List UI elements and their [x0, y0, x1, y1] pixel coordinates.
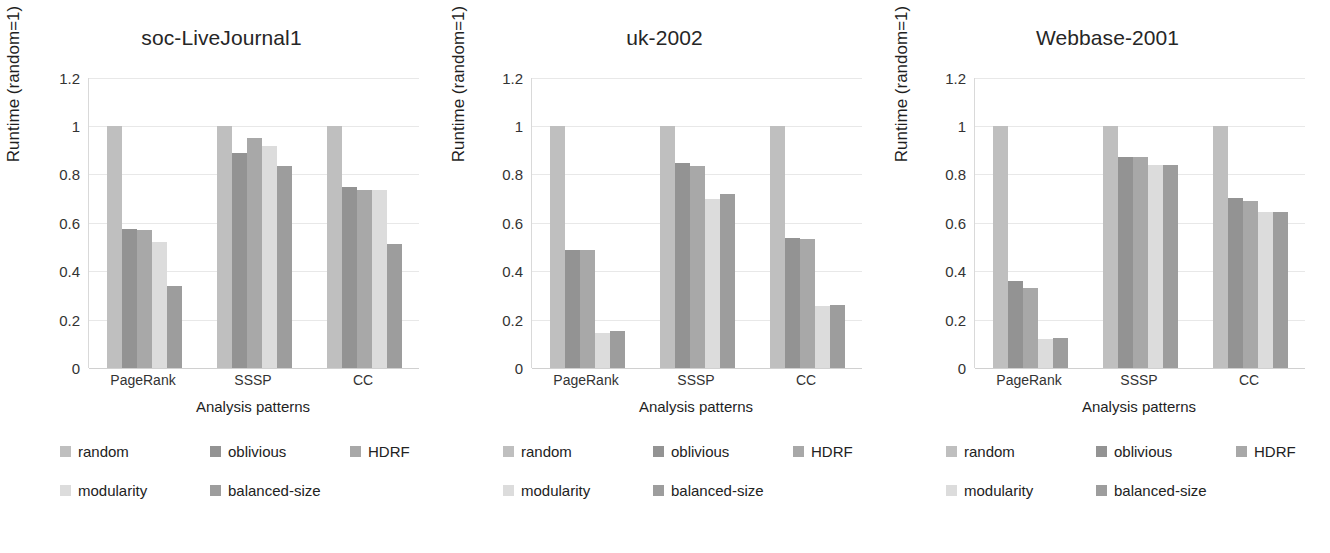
y-tick: 0	[920, 360, 966, 377]
legend-1: randomobliviousHDRFmodularitybalanced-si…	[60, 443, 430, 521]
bar-groups-1	[89, 78, 419, 368]
bar	[1163, 165, 1178, 368]
legend-row: modularitybalanced-size	[946, 482, 1316, 499]
legend-swatch-icon	[653, 446, 664, 457]
legend-label: HDRF	[811, 443, 853, 460]
x-tick: SSSP	[641, 372, 751, 388]
y-axis-ticks: 1.2 1 0.8 0.6 0.4 0.2 0	[28, 78, 80, 368]
bar	[152, 242, 167, 368]
legend-item-random[interactable]: random	[946, 443, 1096, 460]
legend-item-balanced-size[interactable]: balanced-size	[1096, 482, 1207, 499]
legend-item-balanced-size[interactable]: balanced-size	[210, 482, 321, 499]
bar	[137, 230, 152, 368]
legend-label: oblivious	[671, 443, 729, 460]
y-tick: 0.8	[477, 166, 523, 183]
bar	[1148, 165, 1163, 368]
bar	[830, 305, 845, 368]
legend-item-oblivious[interactable]: oblivious	[1096, 443, 1236, 460]
legend-swatch-icon	[503, 446, 514, 457]
bar	[107, 126, 122, 368]
y-tick: 1.2	[34, 70, 80, 87]
y-tick: 0.6	[920, 215, 966, 232]
x-tick: CC	[751, 372, 861, 388]
page-title: uk-2002	[443, 26, 886, 50]
bar-groups-2	[532, 78, 862, 368]
bar	[675, 163, 690, 368]
y-tick: 0	[34, 360, 80, 377]
legend-item-modularity[interactable]: modularity	[60, 482, 210, 499]
chart-panel-webbase-2001: Webbase-2001 Runtime (random=1) 1.2 1 0.…	[886, 0, 1329, 553]
bar	[262, 146, 277, 368]
bar-group	[309, 78, 419, 368]
y-axis-ticks: 1.2 1 0.8 0.6 0.4 0.2 0	[914, 78, 966, 368]
legend-swatch-icon	[1096, 446, 1107, 457]
y-tick: 0.4	[920, 263, 966, 280]
x-axis-label: Analysis patterns	[974, 398, 1304, 415]
legend-label: oblivious	[1114, 443, 1172, 460]
legend-item-balanced-size[interactable]: balanced-size	[653, 482, 764, 499]
bar	[720, 194, 735, 368]
bar	[232, 153, 247, 368]
bar	[770, 126, 785, 368]
legend-item-random[interactable]: random	[503, 443, 653, 460]
y-tick: 0	[477, 360, 523, 377]
bar	[1008, 281, 1023, 368]
y-tick: 1.2	[477, 70, 523, 87]
legend-item-modularity[interactable]: modularity	[946, 482, 1096, 499]
bar	[610, 331, 625, 368]
bar	[1118, 157, 1133, 368]
bar	[993, 126, 1008, 368]
chart-panel-uk-2002: uk-2002 Runtime (random=1) 1.2 1 0.8 0.6…	[443, 0, 886, 553]
bar	[1213, 126, 1228, 368]
bar	[247, 138, 262, 368]
legend-row: randomobliviousHDRF	[60, 443, 430, 460]
bar-group	[752, 78, 862, 368]
y-tick: 0.2	[477, 312, 523, 329]
legend-item-hdrf[interactable]: HDRF	[350, 443, 410, 460]
legend-swatch-icon	[350, 446, 361, 457]
bar	[387, 244, 402, 368]
bar-group	[975, 78, 1085, 368]
plot-canvas-2	[531, 78, 862, 368]
bar	[705, 199, 720, 368]
y-tick: 0.8	[34, 166, 80, 183]
legend-swatch-icon	[60, 446, 71, 457]
legend-label: oblivious	[228, 443, 286, 460]
legend-swatch-icon	[653, 485, 664, 496]
bar	[327, 126, 342, 368]
legend-item-oblivious[interactable]: oblivious	[210, 443, 350, 460]
x-axis-ticks: PageRank SSSP CC	[974, 372, 1304, 388]
axis-baseline	[532, 368, 862, 369]
x-axis-label: Analysis patterns	[88, 398, 418, 415]
axis-baseline	[975, 368, 1305, 369]
bar	[122, 229, 137, 368]
legend-swatch-icon	[503, 485, 514, 496]
legend-item-hdrf[interactable]: HDRF	[1236, 443, 1296, 460]
legend-item-hdrf[interactable]: HDRF	[793, 443, 853, 460]
legend-swatch-icon	[210, 485, 221, 496]
legend-item-modularity[interactable]: modularity	[503, 482, 653, 499]
x-tick: PageRank	[88, 372, 198, 388]
bar	[1273, 212, 1288, 368]
legend-row: randomobliviousHDRF	[946, 443, 1316, 460]
legend-item-random[interactable]: random	[60, 443, 210, 460]
y-tick: 0.4	[477, 263, 523, 280]
bar-group	[89, 78, 199, 368]
bar	[1133, 157, 1148, 368]
legend-swatch-icon	[946, 485, 957, 496]
plot-area-3: Runtime (random=1) 1.2 1 0.8 0.6 0.4 0.2…	[886, 78, 1329, 378]
figure-root: soc-LiveJournal1 Runtime (random=1) 1.2 …	[0, 0, 1330, 553]
plot-area-2: Runtime (random=1) 1.2 1 0.8 0.6 0.4 0.2…	[443, 78, 886, 378]
legend-swatch-icon	[60, 485, 71, 496]
axis-baseline	[89, 368, 419, 369]
bar	[800, 239, 815, 368]
bar	[342, 187, 357, 368]
legend-item-oblivious[interactable]: oblivious	[653, 443, 793, 460]
x-tick: PageRank	[974, 372, 1084, 388]
bar	[1243, 201, 1258, 368]
bar-groups-3	[975, 78, 1305, 368]
legend-label: modularity	[78, 482, 147, 499]
bar	[565, 250, 580, 368]
bar	[357, 190, 372, 368]
legend-label: balanced-size	[671, 482, 764, 499]
